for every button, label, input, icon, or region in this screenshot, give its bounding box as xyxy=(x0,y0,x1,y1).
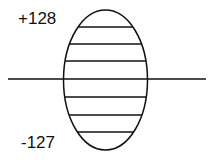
min-value-label: -127 xyxy=(21,134,55,151)
max-value-label: +128 xyxy=(18,10,56,27)
ellipse-outline xyxy=(64,10,148,150)
